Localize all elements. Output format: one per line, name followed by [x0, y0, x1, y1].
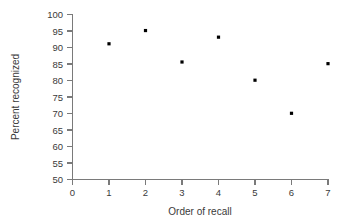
- y-tick-marks: [67, 15, 72, 180]
- x-tick-label-1: 1: [106, 187, 111, 198]
- data-point: [290, 112, 293, 115]
- x-tick-label-7: 7: [325, 187, 330, 198]
- y-tick-label-70: 70: [52, 108, 63, 119]
- data-points-layer: [107, 29, 329, 115]
- y-tick-label-100: 100: [47, 9, 63, 20]
- data-point: [326, 62, 329, 65]
- y-tick-label-75: 75: [52, 92, 63, 103]
- y-tick-label-50: 50: [52, 174, 63, 185]
- data-point: [144, 29, 147, 32]
- data-point: [253, 79, 256, 82]
- y-tick-label-90: 90: [52, 42, 63, 53]
- y-tick-label-55: 55: [52, 158, 63, 169]
- x-tick-label-4: 4: [216, 187, 221, 198]
- chart-canvas: 100 95 90 85 80 75 70 65 60 55 50 0 1 2 …: [0, 0, 347, 224]
- x-tick-label-2: 2: [143, 187, 148, 198]
- x-tick-label-0: 0: [70, 187, 75, 198]
- data-point: [180, 60, 183, 63]
- y-tick-label-60: 60: [52, 141, 63, 152]
- y-tick-label-85: 85: [52, 59, 63, 70]
- y-tick-label-95: 95: [52, 26, 63, 37]
- x-tick-label-5: 5: [252, 187, 257, 198]
- x-axis-title: Order of recall: [168, 206, 231, 217]
- y-tick-label-80: 80: [52, 75, 63, 86]
- data-point: [217, 36, 220, 39]
- y-axis-title: Percent recognized: [10, 54, 21, 140]
- data-point: [107, 42, 110, 45]
- x-tick-label-3: 3: [179, 187, 184, 198]
- y-tick-label-65: 65: [52, 125, 63, 136]
- x-tick-label-6: 6: [289, 187, 294, 198]
- scatter-chart: 100 95 90 85 80 75 70 65 60 55 50 0 1 2 …: [0, 0, 347, 224]
